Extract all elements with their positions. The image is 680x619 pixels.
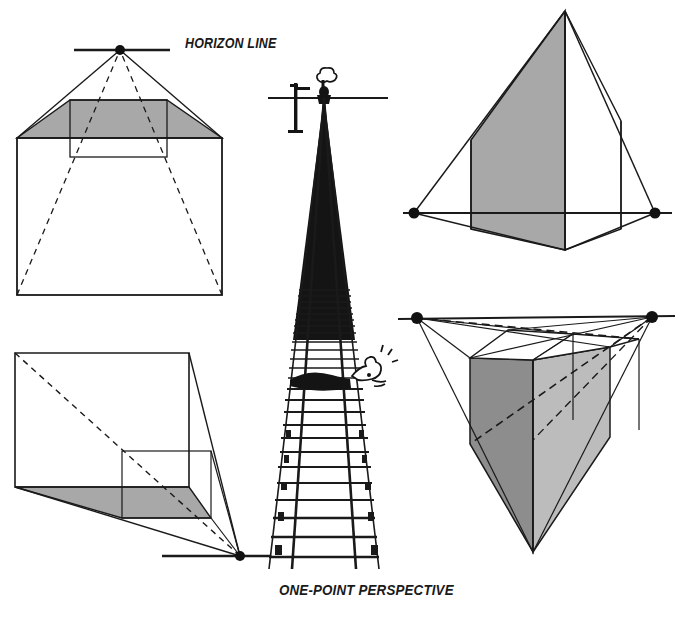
diagram-svg	[0, 0, 680, 619]
bottom-right-right-light-face	[533, 347, 610, 552]
top-left-dashed-to-vp-a	[17, 50, 120, 295]
bottom-left-edge-to-vp-top	[189, 353, 240, 556]
telegraph-pole-icon	[288, 83, 310, 133]
figure-title: ONE-POINT PERSPECTIVE	[279, 581, 454, 599]
bottom-right-line-l4	[417, 318, 470, 358]
bottom-right-vanishing-point-right-dot	[646, 311, 658, 323]
bottom-left-dashed-diagonal	[15, 353, 240, 556]
smoke-cloud-icon	[317, 68, 337, 82]
bottom-left-front-face	[15, 353, 189, 487]
panel-bottom-right-two-point-form	[398, 311, 675, 552]
bottom-left-vanishing-point-dot	[235, 551, 245, 561]
bottom-right-line-r3	[508, 317, 652, 330]
panel-center-railroad-track	[268, 68, 398, 569]
bottom-right-left-dark-face	[470, 358, 533, 552]
top-left-front-face	[17, 138, 222, 295]
horizon-line-label: HORIZON LINE	[185, 35, 276, 51]
panel-bottom-left-one-point-box	[15, 353, 276, 561]
panel-top-left-one-point-box	[17, 45, 222, 295]
bottom-left-edge-to-vp-corner	[211, 451, 240, 556]
perspective-diagram-canvas: HORIZON LINE ONE-POINT PERSPECTIVE	[0, 0, 680, 619]
bottom-right-vanishing-point-left-dot	[411, 312, 423, 324]
top-right-left-shaded-face	[471, 11, 565, 250]
top-right-vanishing-point-left-dot	[409, 208, 420, 219]
top-right-right-face	[565, 11, 621, 250]
top-left-shaded-top-plane	[17, 100, 222, 138]
track-ballast-wedge	[293, 98, 355, 340]
panel-top-right-two-point-form	[403, 11, 672, 250]
top-left-dashed-to-vp-b	[120, 50, 222, 295]
top-right-vanishing-point-right-dot	[650, 208, 661, 219]
top-left-vanishing-point-dot	[115, 45, 125, 55]
